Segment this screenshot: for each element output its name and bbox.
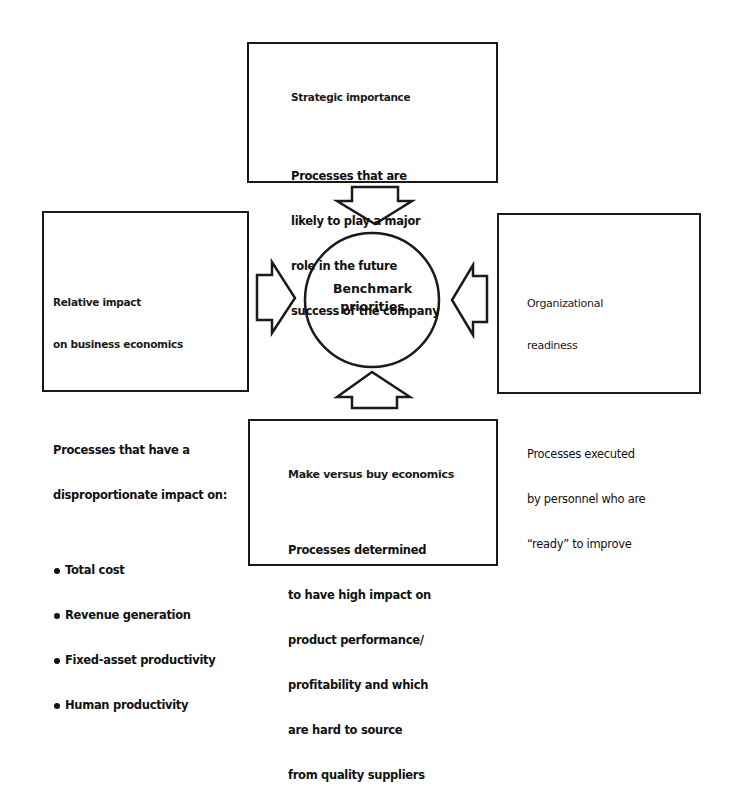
heading-line: Relative impact	[53, 295, 227, 309]
arrow-left-icon	[452, 265, 487, 335]
body-line: role in the future	[291, 259, 439, 274]
body-line: Processes that are	[291, 169, 439, 184]
box-organizational-readiness: Organizational readiness Processes execu…	[497, 213, 701, 394]
body-line: by personnel who are	[527, 492, 645, 507]
box-make-versus-buy: Make versus buy economics Processes dete…	[248, 419, 498, 566]
box-heading: Make versus buy economics	[288, 468, 454, 482]
body-line: Processes that have a	[53, 443, 227, 458]
box-body: Processes executed by personnel who are …	[527, 417, 645, 582]
heading-line: on business economics	[53, 337, 227, 351]
body-line: “ready” to improve	[527, 537, 645, 552]
box-heading: Relative impact on business economics	[53, 267, 227, 379]
body-line: from quality suppliers	[288, 768, 454, 783]
body-line: to have high impact on	[288, 588, 454, 603]
box-strategic-importance: Strategic importance Processes that are …	[247, 42, 498, 183]
box-body: Processes that have a disproportionate i…	[53, 413, 227, 773]
box-body: Processes determined to have high impact…	[288, 513, 454, 786]
bullet-item: Human productivity	[53, 698, 227, 713]
body-line: profitability and which	[288, 678, 454, 693]
body-line: Processes executed	[527, 447, 645, 462]
box-heading: Strategic importance	[291, 90, 439, 104]
body-line: disproportionate impact on:	[53, 488, 227, 503]
bullet-item: Total cost	[53, 563, 227, 578]
bullet-item: Revenue generation	[53, 608, 227, 623]
body-line: are hard to source	[288, 723, 454, 738]
box-body: Processes that are likely to play a majo…	[291, 139, 439, 349]
box-heading: Organizational readiness	[527, 269, 645, 381]
impact-bullet-list: Total cost Revenue generation Fixed-asse…	[53, 533, 227, 743]
box-relative-impact: Relative impact on business economics Pr…	[42, 211, 249, 392]
heading-line: Organizational	[527, 297, 645, 311]
arrow-right-icon	[257, 262, 295, 333]
body-line: success of the company	[291, 304, 439, 319]
heading-line: readiness	[527, 339, 645, 353]
body-line: likely to play a major	[291, 214, 439, 229]
bullet-item: Fixed-asset productivity	[53, 653, 227, 668]
body-line: product performance/	[288, 633, 454, 648]
body-line: Processes determined	[288, 543, 454, 558]
